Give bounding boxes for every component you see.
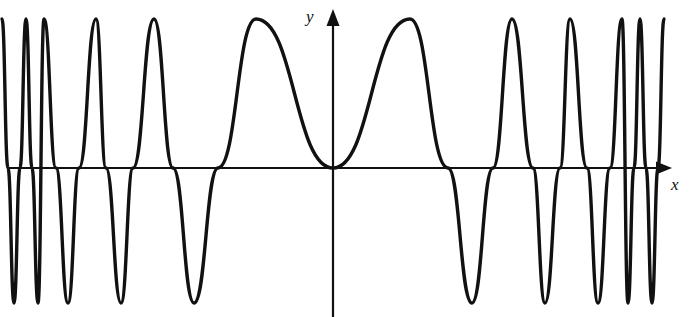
function-graph-figure: y x (0, 0, 691, 317)
plot-canvas (0, 0, 691, 317)
y-axis-arrowhead (327, 9, 340, 26)
x-axis-label: x (671, 176, 679, 193)
y-axis-label: y (306, 8, 314, 25)
